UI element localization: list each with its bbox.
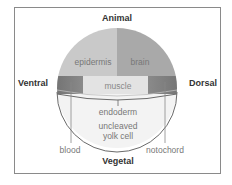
label-yolk-2: yolk cell <box>103 132 133 141</box>
epidermis-region <box>50 20 117 76</box>
label-notochord: notochord <box>146 146 184 155</box>
label-epidermis: epidermis <box>75 58 112 67</box>
band-ventral-dark <box>50 76 83 94</box>
label-blood: blood <box>60 146 81 155</box>
label-endoderm: endoderm <box>99 108 137 117</box>
label-vegetal: Vegetal <box>102 157 134 166</box>
label-yolk-1: uncleaved <box>99 122 138 131</box>
brain-region <box>117 20 187 76</box>
label-dorsal: Dorsal <box>189 79 217 88</box>
label-animal: Animal <box>102 14 132 23</box>
label-brain: brain <box>131 58 150 67</box>
label-muscle: muscle <box>105 82 132 91</box>
label-ventral: Ventral <box>18 79 48 88</box>
